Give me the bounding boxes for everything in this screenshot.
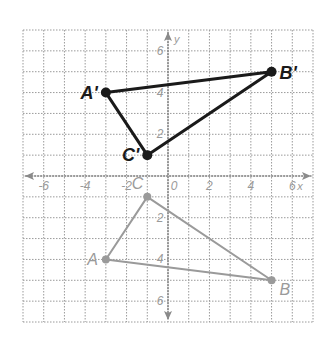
x-tick-label: 0 (171, 179, 178, 193)
coordinate-plane-figure: yx-6-4-20246642246ABCA'B'C' (0, 0, 321, 354)
image-triangle-vertex-label: A' (80, 83, 99, 103)
y-tick-label: 4 (157, 86, 164, 100)
image-triangle-vertex-point (101, 88, 111, 98)
x-tick-label: 6 (289, 179, 296, 193)
y-tick-label: 4 (157, 252, 164, 266)
coordinate-plane: yx-6-4-20246642246ABCA'B'C' (0, 0, 321, 354)
y-tick-label: 2 (156, 127, 164, 141)
preimage-triangle-vertex-label: B (280, 281, 291, 298)
image-triangle-vertex-label: B' (280, 63, 298, 83)
preimage-triangle-vertex-label: C (132, 175, 144, 192)
preimage-triangle-vertex-label: A (86, 251, 98, 268)
preimage-triangle-vertex-point (268, 276, 276, 284)
image-triangle-vertex-label: C' (122, 145, 140, 165)
image-triangle-vertex-point (267, 67, 277, 77)
x-tick-label: -4 (80, 179, 91, 193)
x-tick-label: 4 (248, 179, 255, 193)
x-axis-label: x (296, 180, 303, 192)
y-tick-label: 6 (157, 44, 164, 58)
x-tick-label: -2 (121, 179, 132, 193)
preimage-triangle-vertex-point (102, 255, 110, 263)
x-tick-label: -6 (38, 179, 49, 193)
y-axis-label: y (173, 33, 181, 45)
preimage-triangle-vertex-point (143, 193, 151, 201)
x-tick-label: 2 (205, 179, 213, 193)
y-tick-label: 2 (156, 211, 164, 225)
y-tick-label: 6 (157, 294, 164, 308)
image-triangle-vertex-point (142, 150, 152, 160)
